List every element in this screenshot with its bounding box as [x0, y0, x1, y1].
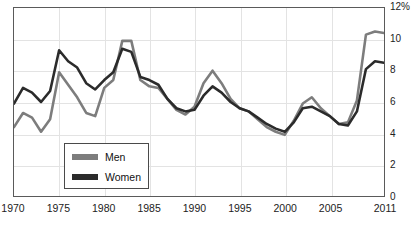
y-axis-tick-label: 10	[390, 34, 401, 44]
x-axis-tick-label: 1985	[129, 203, 169, 214]
legend-label-men: Men	[105, 152, 125, 163]
series-line-men	[14, 32, 384, 135]
chart-legend: Men Women	[64, 143, 149, 189]
x-axis-tick-label: 2011	[365, 203, 405, 214]
y-axis-tick-label: 4	[390, 129, 396, 139]
y-axis-tick-label: 8	[390, 65, 396, 75]
legend-swatch-men	[72, 154, 98, 160]
y-axis-tick-label: 6	[390, 97, 396, 107]
x-axis-tick-label: 1990	[174, 203, 214, 214]
legend-item-men: Men	[72, 148, 125, 166]
legend-item-women: Women	[72, 168, 141, 186]
y-axis-tick-label: 0	[390, 192, 396, 202]
line-chart: 12%1086420 19701975198019851990199520002…	[0, 0, 419, 230]
series-line-women	[14, 49, 384, 132]
y-axis-tick-label: 2	[390, 160, 396, 170]
x-axis-tick-label: 1970	[0, 203, 33, 214]
legend-label-women: Women	[105, 172, 141, 183]
x-axis-tick-label: 2000	[265, 203, 305, 214]
x-axis-tick-label: 1975	[38, 203, 78, 214]
legend-swatch-women	[72, 174, 98, 180]
x-axis-tick-label: 2005	[311, 203, 351, 214]
y-axis-tick-label: 12%	[390, 2, 410, 12]
x-axis-tick-label: 1995	[220, 203, 260, 214]
x-axis-tick-label: 1980	[84, 203, 124, 214]
